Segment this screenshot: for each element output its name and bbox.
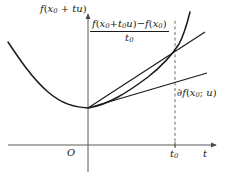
difference-quotient-denominator: t0 [90, 32, 169, 44]
t-axis-label: t [203, 149, 207, 159]
num-close2: ) [163, 18, 167, 29]
y-axis-label-plus: + [58, 3, 73, 14]
tangent-close: ) [213, 87, 217, 98]
y-axis-label-close: ) [83, 3, 87, 14]
directional-derivative-figure: f(x0 + tu) f(x0+t0u)−f(x0) t0 ∂f(x0; u) … [0, 0, 232, 178]
num-minus: − [137, 18, 145, 29]
t0-tick-sub: 0 [174, 152, 178, 160]
num-plus: + [110, 18, 118, 29]
difference-quotient-label: f(x0+t0u)−f(x0) t0 [90, 19, 169, 45]
difference-quotient-fraction: f(x0+t0u)−f(x0) t0 [90, 19, 169, 45]
y-axis-label: f(x0 + tu) [40, 4, 87, 15]
origin-label: O [67, 148, 75, 158]
t0-tick-label: t0 [170, 149, 178, 160]
directional-derivative-label: ∂f(x0; u) [177, 88, 217, 99]
den-t-sub: 0 [129, 37, 133, 45]
difference-quotient-numerator: f(x0+t0u)−f(x0) [90, 19, 169, 32]
